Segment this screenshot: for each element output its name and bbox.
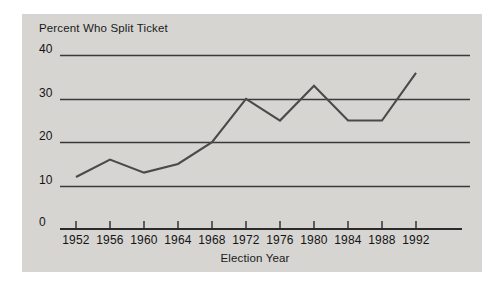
figure: Percent Who Split Ticket 40 30 20 10 0 1… <box>0 0 501 288</box>
gridlines <box>60 56 470 187</box>
plot-area <box>0 0 501 288</box>
x-axis <box>60 221 462 229</box>
data-line-split-ticket <box>76 73 416 177</box>
